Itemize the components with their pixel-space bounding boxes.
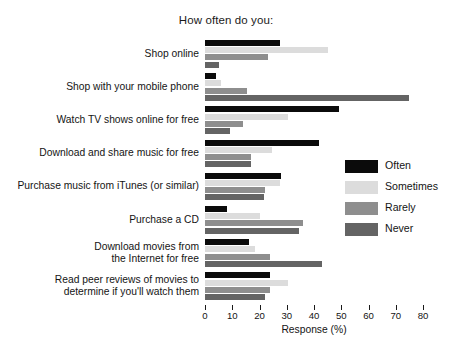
bar-sometimes: [205, 246, 255, 252]
bar-often: [205, 239, 249, 245]
x-axis-tick-label: 20: [254, 310, 265, 321]
legend-item-sometimes: Sometimes: [345, 179, 445, 200]
bar-rarely: [205, 254, 270, 260]
x-axis-tick-label: 30: [281, 310, 292, 321]
bar-rarely: [205, 54, 268, 60]
legend-swatch-rarely: [345, 202, 378, 215]
x-axis-tick-label: 80: [418, 310, 429, 321]
legend-label: Rarely: [385, 201, 416, 213]
category-label: Download and share music for free: [4, 147, 199, 159]
bar-sometimes: [205, 180, 280, 186]
bar-group: [205, 239, 423, 268]
category-label: Download movies from the Internet for fr…: [4, 241, 199, 264]
bar-rarely: [205, 287, 270, 293]
bar-never: [205, 128, 230, 134]
bar-often: [205, 73, 216, 79]
bar-never: [205, 261, 322, 267]
bar-sometimes: [205, 280, 288, 286]
category-label: Read peer reviews of movies to determine…: [4, 274, 199, 297]
x-axis-tick-label: 50: [336, 310, 347, 321]
category-label: Shop with your mobile phone: [4, 81, 199, 93]
bar-often: [205, 206, 227, 212]
bar-often: [205, 40, 280, 46]
bar-often: [205, 272, 270, 278]
bar-group: [205, 73, 423, 102]
legend-item-rarely: Rarely: [345, 200, 445, 221]
x-axis-tick-label: 0: [202, 310, 207, 321]
legend-swatch-sometimes: [345, 181, 378, 194]
legend-label: Never: [385, 222, 413, 234]
bar-rarely: [205, 154, 251, 160]
legend-item-never: Never: [345, 221, 445, 242]
bar-group: [205, 106, 423, 135]
bar-never: [205, 194, 264, 200]
bar-rarely: [205, 187, 265, 193]
bar-often: [205, 173, 281, 179]
bar-never: [205, 228, 299, 234]
legend-swatch-often: [345, 160, 378, 173]
legend-swatch-never: [345, 223, 378, 236]
bar-often: [205, 140, 319, 146]
bar-never: [205, 294, 265, 300]
bar-rarely: [205, 121, 243, 127]
bar-sometimes: [205, 114, 288, 120]
bar-group: [205, 40, 423, 69]
bar-rarely: [205, 88, 247, 94]
category-label: Purchase a CD: [4, 214, 199, 226]
bar-group: [205, 272, 423, 301]
bar-sometimes: [205, 47, 328, 53]
bar-never: [205, 62, 219, 68]
bar-sometimes: [205, 213, 260, 219]
x-axis: Response (%) 01020304050607080: [205, 305, 423, 345]
bar-never: [205, 161, 251, 167]
bar-chart: How often do you: Response (%) 010203040…: [0, 0, 452, 356]
bar-never: [205, 95, 409, 101]
x-axis-tick-label: 40: [309, 310, 320, 321]
legend-label: Often: [385, 159, 411, 171]
chart-title: How often do you:: [0, 14, 452, 26]
x-axis-tick-label: 60: [363, 310, 374, 321]
category-label: Shop online: [4, 48, 199, 60]
bar-sometimes: [205, 147, 272, 153]
x-axis-tick-label: 10: [227, 310, 238, 321]
category-label: Watch TV shows online for free: [4, 114, 199, 126]
chart-legend: OftenSometimesRarelyNever: [345, 158, 445, 242]
bar-rarely: [205, 220, 303, 226]
bar-often: [205, 106, 339, 112]
legend-item-often: Often: [345, 158, 445, 179]
x-axis-title: Response (%): [205, 324, 423, 335]
bar-sometimes: [205, 80, 221, 86]
category-label: Purchase music from iTunes (or similar): [4, 180, 199, 192]
legend-label: Sometimes: [385, 180, 438, 192]
x-axis-tick-label: 70: [390, 310, 401, 321]
